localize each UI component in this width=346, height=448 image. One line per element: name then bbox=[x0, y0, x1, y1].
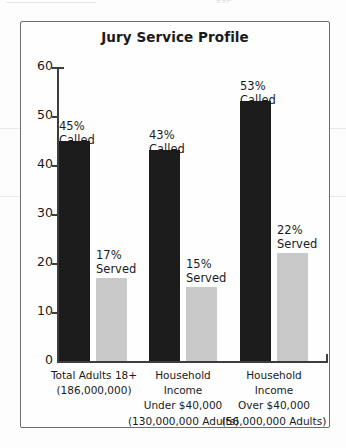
chart-container: Jury Service Profile 60 50 40 30 20 10 0… bbox=[20, 21, 330, 428]
bar-value-text: 53% bbox=[240, 79, 266, 93]
bar-called-group1 bbox=[59, 141, 90, 361]
bar-value-text: 22% bbox=[277, 223, 303, 237]
y-tick-label-60: 60 bbox=[13, 60, 53, 73]
bar-label-called-group3: 53% Called bbox=[240, 80, 276, 107]
x-axis-line bbox=[57, 361, 328, 363]
bar-label-served-group1: 17% Served bbox=[96, 249, 136, 276]
scan-top-artifact: ggp bbox=[0, 0, 346, 14]
bar-series-text: Served bbox=[186, 271, 226, 285]
y-tick-label-40: 40 bbox=[13, 158, 53, 171]
bar-called-group3 bbox=[240, 101, 271, 361]
bar-served-group1 bbox=[96, 278, 127, 361]
plot-area: 60 50 40 30 20 10 0 45% Called 17% Serve… bbox=[21, 22, 331, 429]
bar-served-group3 bbox=[277, 253, 308, 361]
category-line: (56,000,000 Adults) bbox=[219, 414, 329, 429]
scan-artifact-rule bbox=[6, 0, 96, 3]
category-line: Over $40,000 bbox=[219, 398, 329, 413]
category-line: Income bbox=[219, 383, 329, 398]
y-tick-label-50: 50 bbox=[13, 109, 53, 122]
category-line: Household bbox=[219, 368, 329, 383]
scan-artifact-text: ggp bbox=[215, 0, 232, 3]
category-label-group3: Household Income Over $40,000 (56,000,00… bbox=[219, 368, 329, 429]
y-tick-label-0: 0 bbox=[13, 354, 53, 367]
bar-called-group2 bbox=[149, 150, 180, 361]
y-tick-label-30: 30 bbox=[13, 207, 53, 220]
bar-label-served-group3: 22% Served bbox=[277, 224, 317, 251]
bar-series-text: Served bbox=[96, 262, 136, 276]
bar-label-called-group1: 45% Called bbox=[59, 120, 95, 147]
bar-series-text: Called bbox=[240, 93, 276, 107]
y-axis-top-cap bbox=[57, 67, 64, 69]
bar-value-text: 45% bbox=[59, 119, 85, 133]
bar-label-called-group2: 43% Called bbox=[149, 129, 185, 156]
bar-value-text: 17% bbox=[96, 248, 122, 262]
bar-series-text: Called bbox=[59, 133, 95, 147]
y-tick-label-20: 20 bbox=[13, 256, 53, 269]
x-axis-right-cap bbox=[326, 354, 328, 362]
y-tick-label-10: 10 bbox=[13, 305, 53, 318]
bar-series-text: Served bbox=[277, 237, 317, 251]
bar-value-text: 15% bbox=[186, 257, 212, 271]
bar-series-text: Called bbox=[149, 142, 185, 156]
bar-value-text: 43% bbox=[149, 128, 175, 142]
bar-served-group2 bbox=[186, 287, 217, 361]
bar-label-served-group2: 15% Served bbox=[186, 258, 226, 285]
